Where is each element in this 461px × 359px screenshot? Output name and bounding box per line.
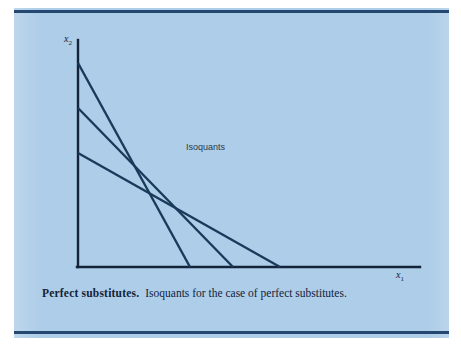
isoquants-annotation: Isoquants [186,142,225,152]
figure-page: x2 x1 Isoquants Perfect substitutes.Isoq… [0,0,461,359]
isoquant-line-3 [78,153,280,267]
caption-title: Perfect substitutes. [42,287,139,299]
y-axis-label: x2 [64,34,72,47]
isoquant-line-2 [78,108,233,267]
x-axis-label: x1 [396,270,404,283]
x-axis-label-subscript: 1 [400,275,404,283]
figure-caption: Perfect substitutes.Isoquants for the ca… [42,286,414,301]
caption-body: Isoquants for the case of perfect substi… [145,287,347,299]
y-axis-label-subscript: 2 [68,39,72,47]
